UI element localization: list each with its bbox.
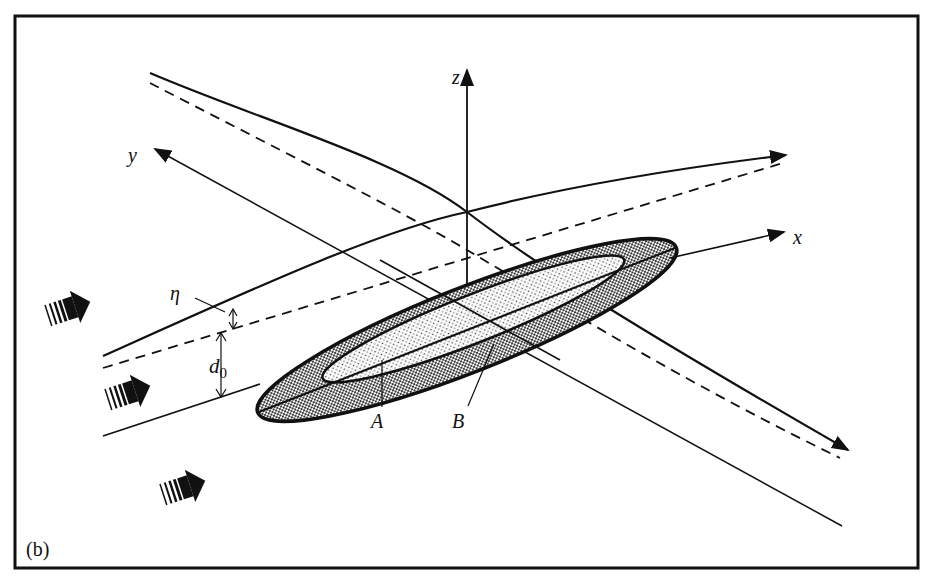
flow-arrow-2 [103, 370, 155, 416]
eta-leader [195, 298, 225, 312]
streamline-descending [150, 73, 848, 450]
d0-label: d0 [209, 354, 227, 381]
panel-label: (b) [26, 538, 49, 561]
streamline-diagram: y z x η d0 A B [0, 0, 928, 577]
y-axis-label: y [126, 144, 137, 167]
x-axis-label: x [792, 226, 802, 248]
eta-label: η [170, 282, 180, 305]
flow-arrow-3 [158, 465, 210, 511]
streamline-descending-dashed [150, 83, 840, 458]
point-a-label: A [369, 410, 384, 432]
point-b-label: B [452, 410, 464, 432]
x-axis [670, 232, 784, 258]
z-axis-label: z [451, 66, 460, 88]
flow-arrow-1 [43, 286, 95, 332]
